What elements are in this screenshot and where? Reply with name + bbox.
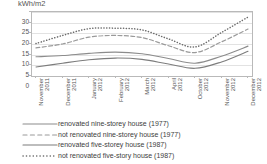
x-axis-tick-label: January2012 bbox=[91, 78, 104, 120]
x-axis-tick-mark bbox=[141, 76, 142, 78]
legend-item: renovated nine-storey house (1977) bbox=[22, 119, 254, 130]
y-axis-tick-mark bbox=[29, 32, 31, 33]
x-axis-tick-label: December2012 bbox=[250, 78, 263, 120]
legend-item: not renovated nine-storey house (1977) bbox=[22, 130, 254, 141]
x-axis-labels: November2011December2011January2012Febru… bbox=[31, 78, 253, 120]
y-axis-tick-mark bbox=[29, 43, 31, 44]
legend-item: not renovated five-story house (1987) bbox=[22, 151, 254, 162]
y-axis-tick-mark bbox=[29, 54, 31, 55]
legend-key-solid-icon bbox=[22, 119, 58, 129]
x-axis-tick-label: February2012 bbox=[118, 78, 131, 120]
x-axis-tick-mark bbox=[194, 76, 195, 78]
chart-legend: renovated nine-storey house (1977)not re… bbox=[22, 119, 254, 163]
legend-key-dashed-icon bbox=[22, 130, 58, 140]
x-axis-tick-mark bbox=[221, 76, 222, 78]
y-axis-tick-label: 20 bbox=[22, 40, 29, 47]
series-line bbox=[36, 29, 248, 53]
x-axis-tick-mark bbox=[88, 76, 89, 78]
y-axis-tick-mark bbox=[29, 64, 31, 65]
y-axis-tick-label: 30 bbox=[22, 19, 29, 26]
series-layer bbox=[32, 12, 252, 76]
y-axis-tick-label: 10 bbox=[22, 61, 29, 68]
x-axis-tick-label: November2011 bbox=[38, 78, 51, 120]
x-axis-tick-label: October2012 bbox=[197, 78, 210, 120]
y-axis-tick-mark bbox=[29, 11, 31, 12]
y-axis-tick-label: 25 bbox=[22, 29, 29, 36]
series-line bbox=[36, 46, 248, 63]
legend-key-dotted-icon bbox=[22, 151, 58, 161]
y-axis-title: kWh/m2 bbox=[18, 0, 46, 8]
y-axis-tick-mark bbox=[29, 75, 31, 76]
y-axis-tick-mark bbox=[29, 22, 31, 23]
plot-area bbox=[31, 11, 253, 77]
y-axis-tick-label: 0 bbox=[25, 83, 29, 90]
x-axis-tick-mark bbox=[35, 76, 36, 78]
x-axis-tick-mark bbox=[168, 76, 169, 78]
legend-label: not renovated five-story house (1987) bbox=[58, 152, 174, 160]
legend-key-solid-icon bbox=[22, 140, 58, 150]
y-axis-tick-label: 15 bbox=[22, 51, 29, 58]
line-chart: kWh/m2 302520151050 November2011December… bbox=[0, 0, 267, 164]
legend-label: renovated nine-storey house (1977) bbox=[58, 120, 169, 128]
x-axis-tick-label: December2011 bbox=[65, 78, 78, 120]
x-axis-tick-mark bbox=[247, 76, 248, 78]
x-axis-tick-mark bbox=[115, 76, 116, 78]
x-axis-tick-label: April2012 bbox=[171, 78, 184, 120]
legend-label: not renovated nine-storey house (1977) bbox=[58, 131, 181, 139]
x-axis-tick-mark bbox=[62, 76, 63, 78]
legend-label: renovated five-storey house (1987) bbox=[58, 141, 167, 149]
y-axis-ticks: 302520151050 bbox=[12, 11, 29, 77]
legend-item: renovated five-storey house (1987) bbox=[22, 140, 254, 151]
x-axis-tick-label: March2012 bbox=[144, 78, 157, 120]
x-axis-tick-label: November2012 bbox=[224, 78, 237, 120]
